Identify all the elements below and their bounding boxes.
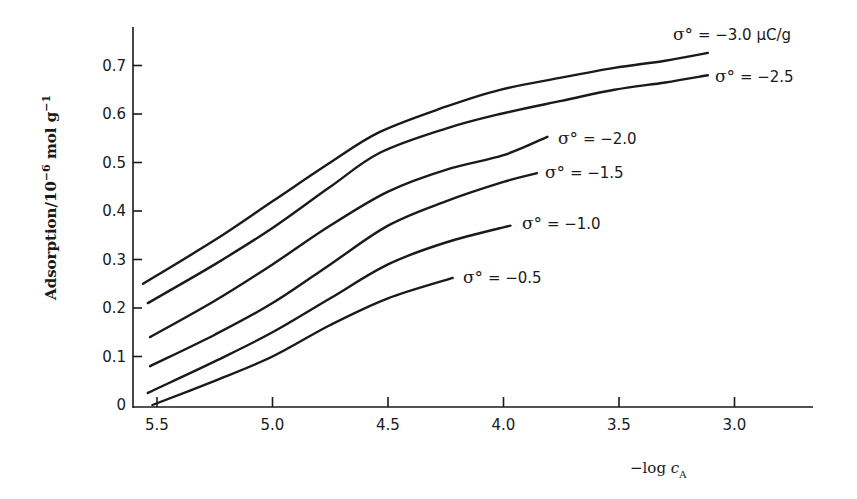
y-tick-label: 0.4 <box>102 202 126 220</box>
x-tick-label: 3.5 <box>607 416 631 434</box>
curve-label: σ° = −0.5 <box>463 267 542 287</box>
curve-label: σ° = −3.0 μC/g <box>673 24 791 44</box>
x-tick-label: 5.5 <box>145 416 169 434</box>
y-axis-label: Adsorption/10−6 mol g−1 <box>40 95 60 301</box>
y-tick-label: 0.3 <box>102 251 126 269</box>
x-tick-label: 4.0 <box>492 416 516 434</box>
curve-label: σ° = −2.5 <box>715 66 794 86</box>
y-tick-label: 0 <box>116 396 126 414</box>
adsorption-curve <box>150 137 547 337</box>
x-ticks: 5.55.04.54.03.53.0 <box>145 397 746 434</box>
y-tick-label: 0.1 <box>102 348 126 366</box>
y-tick-label: 0.7 <box>102 57 126 75</box>
curve-label: σ° = −1.5 <box>545 162 624 182</box>
y-tick-label: 0.6 <box>102 105 126 123</box>
adsorption-curve <box>148 75 708 303</box>
y-tick-label: 0.2 <box>102 299 126 317</box>
adsorption-chart: 00.10.20.30.40.50.60.7 Adsorption/10−6 m… <box>0 0 857 499</box>
curves <box>143 53 708 405</box>
y-axis: 00.10.20.30.40.50.60.7 Adsorption/10−6 m… <box>40 27 142 414</box>
x-axis: 5.55.04.54.03.53.0 −log cA <box>133 397 813 480</box>
x-tick-label: 5.0 <box>261 416 285 434</box>
curve-labels: σ° = −3.0 μC/gσ° = −2.5σ° = −2.0σ° = −1.… <box>463 24 794 287</box>
x-axis-label: −log cA <box>630 459 687 480</box>
x-tick-label: 3.0 <box>723 416 747 434</box>
x-tick-label: 4.5 <box>376 416 400 434</box>
curve-label: σ° = −2.0 <box>558 128 637 148</box>
y-ticks: 00.10.20.30.40.50.60.7 <box>102 57 142 415</box>
curve-label: σ° = −1.0 <box>522 213 601 233</box>
adsorption-curve <box>152 278 452 405</box>
y-tick-label: 0.5 <box>102 154 126 172</box>
